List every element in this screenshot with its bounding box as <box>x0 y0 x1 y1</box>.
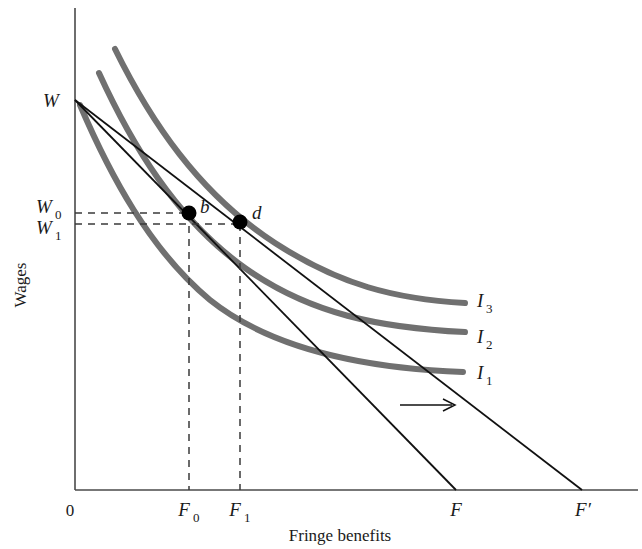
y-label-w1-sub: 1 <box>55 228 62 243</box>
point-d-marker <box>233 215 248 230</box>
curve-label-i1: I 1 <box>476 362 493 388</box>
budget-shift-arrow <box>400 399 455 411</box>
x-label-f0-sub: 0 <box>193 510 200 525</box>
point-label-d: d <box>252 202 262 223</box>
y-label-w1-base: W <box>36 217 54 238</box>
x-label-f0-base: F <box>177 499 190 520</box>
indifference-curve-figure: b d W W 0 W 1 Wages 0 F 0 F 1 F F′ Fring… <box>0 0 642 549</box>
curve-label-i2-sub: 2 <box>486 337 493 352</box>
curve-label-i2-base: I <box>476 326 485 347</box>
indifference-curve-i2 <box>99 73 465 332</box>
x-label-f1-sub: 1 <box>244 510 251 525</box>
indifference-curves-group <box>80 49 465 372</box>
point-b-marker <box>182 206 197 221</box>
guide-lines-group <box>75 213 240 490</box>
curve-label-i3: I 3 <box>476 290 493 316</box>
curve-label-i2: I 2 <box>476 326 493 352</box>
x-axis-title: Fringe benefits <box>289 526 391 545</box>
x-label-f1-base: F <box>228 499 241 520</box>
chart-canvas: b d W W 0 W 1 Wages 0 F 0 F 1 F F′ Fring… <box>0 0 642 549</box>
budget-line-f-prime <box>75 100 582 490</box>
curve-label-i1-base: I <box>476 362 485 383</box>
point-label-b: b <box>200 196 210 217</box>
y-axis-title: Wages <box>11 263 30 308</box>
x-label-f-prime: F′ <box>574 499 592 520</box>
x-label-f: F <box>449 499 462 520</box>
curve-label-i3-sub: 3 <box>486 301 493 316</box>
curve-label-i3-base: I <box>476 290 485 311</box>
y-label-w: W <box>43 90 61 111</box>
y-label-w0-sub: 0 <box>55 207 62 222</box>
y-label-w0-base: W <box>36 196 54 217</box>
equilibrium-points-group <box>182 206 248 230</box>
x-label-origin: 0 <box>66 501 75 520</box>
x-label-f1: F 1 <box>228 499 250 525</box>
budget-lines-group <box>75 100 582 490</box>
curve-label-i1-sub: 1 <box>486 373 493 388</box>
x-label-f0: F 0 <box>177 499 199 525</box>
